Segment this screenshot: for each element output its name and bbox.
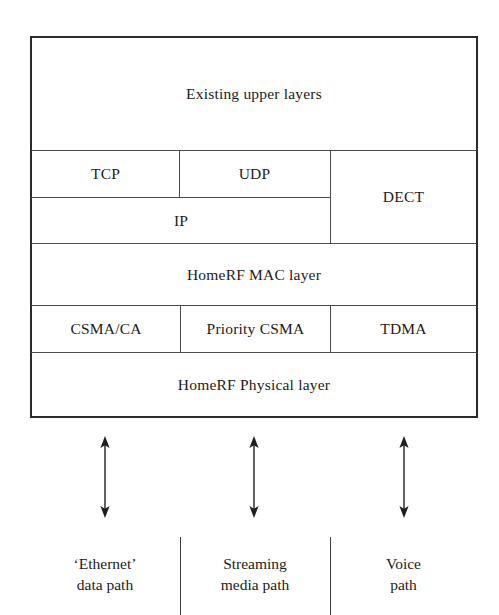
data-path-arrow xyxy=(97,436,113,518)
layer-cell-dect: DECT xyxy=(331,151,476,243)
layer-label-existing-upper-layers: Existing upper layers xyxy=(186,85,322,103)
layer-cell-existing-upper-layers: Existing upper layers xyxy=(32,38,476,150)
layer-label-dect: DECT xyxy=(383,188,424,206)
layer-label-csma-ca: CSMA/CA xyxy=(70,320,141,338)
path-caption-ethernet-data-path-line2: data path xyxy=(32,574,178,595)
layer-label-ip: IP xyxy=(174,212,188,230)
layer-cell-ip: IP xyxy=(32,198,330,243)
layer-cell-homerf-physical-layer: HomeRF Physical layer xyxy=(32,353,476,416)
layer-cell-tcp: TCP xyxy=(32,151,179,197)
layer-cell-priority-csma: Priority CSMA xyxy=(181,306,330,352)
layer-cell-csma-ca: CSMA/CA xyxy=(32,306,180,352)
layer-label-homerf-mac-layer: HomeRF MAC layer xyxy=(187,266,321,284)
layer-cell-udp: UDP xyxy=(180,151,329,197)
layer-label-udp: UDP xyxy=(239,165,271,183)
path-caption-voice-path-line1: Voice xyxy=(331,553,476,574)
path-caption-voice-path-line2: path xyxy=(331,574,476,595)
layer-cell-homerf-mac-layer: HomeRF MAC layer xyxy=(32,244,476,305)
layer-label-homerf-physical-layer: HomeRF Physical layer xyxy=(178,376,330,394)
layer-cell-tdma: TDMA xyxy=(331,306,476,352)
path-caption-ethernet-data-path: ‘Ethernet’ data path xyxy=(32,553,178,596)
path-caption-ethernet-data-path-line1: ‘Ethernet’ xyxy=(32,553,178,574)
path-caption-voice-path: Voice path xyxy=(331,553,476,596)
voice-path-arrow xyxy=(396,436,412,518)
path-caption-streaming-media-path-line1: Streaming xyxy=(181,553,329,574)
path-caption-streaming-media-path: Streaming media path xyxy=(181,553,329,596)
path-caption-streaming-media-path-line2: media path xyxy=(181,574,329,595)
media-path-arrow xyxy=(246,436,262,518)
homerf-protocol-stack-diagram: Existing upper layers TCP UDP DECT IP Ho… xyxy=(0,0,499,615)
layer-label-tcp: TCP xyxy=(91,165,120,183)
layer-label-priority-csma: Priority CSMA xyxy=(207,320,305,338)
layer-label-tdma: TDMA xyxy=(380,320,426,338)
